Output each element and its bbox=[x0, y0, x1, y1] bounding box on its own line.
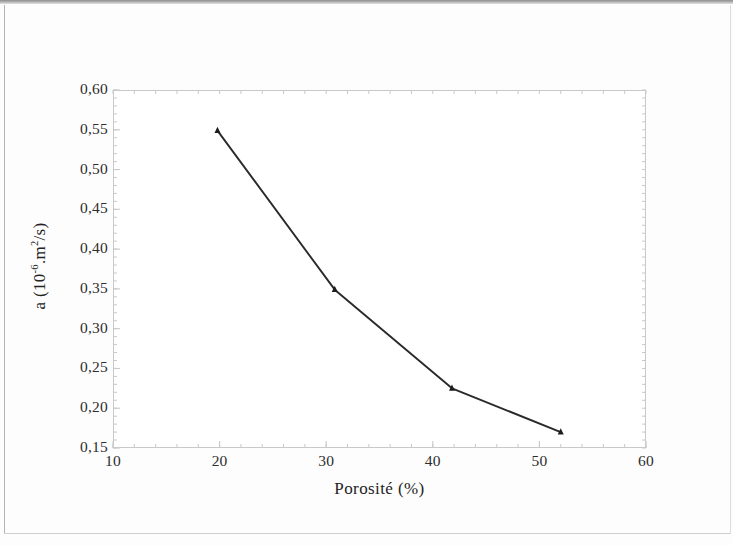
y-axis-minor-ticks bbox=[113, 90, 117, 448]
y-axis-tick-label: 0,25 bbox=[64, 358, 108, 376]
top-axis-minor-ticks bbox=[113, 90, 646, 94]
y-axis-title-exponent: -6 bbox=[29, 264, 40, 273]
y-axis-tick-label: 0,20 bbox=[64, 398, 108, 416]
data-series-markers bbox=[214, 127, 563, 435]
x-axis-tick-label: 30 bbox=[304, 452, 348, 470]
y-axis-title-suffix: /s) bbox=[30, 223, 49, 241]
chart-figure: 0,150,200,250,300,350,400,450,500,550,60… bbox=[0, 0, 733, 545]
y-axis-major-ticks bbox=[113, 90, 120, 448]
right-axis-minor-ticks bbox=[642, 90, 646, 448]
y-axis-tick-label: 0,50 bbox=[64, 160, 108, 178]
x-axis-tick-label: 40 bbox=[411, 452, 455, 470]
y-axis-tick-label: 0,60 bbox=[64, 80, 108, 98]
y-axis-tick-label: 0,55 bbox=[64, 120, 108, 138]
y-axis-title-prefix: a (10 bbox=[30, 273, 49, 309]
x-axis-tick-label: 60 bbox=[624, 452, 668, 470]
y-axis-title: a (10-6.m2/s) bbox=[30, 171, 50, 361]
y-axis-tick-label: 0,35 bbox=[64, 279, 108, 297]
x-axis-tick-label: 50 bbox=[517, 452, 561, 470]
y-axis-tick-label: 0,40 bbox=[64, 239, 108, 257]
y-axis-title-mid: .m bbox=[30, 246, 49, 264]
data-series-line bbox=[217, 131, 560, 433]
x-axis-tick-label: 20 bbox=[198, 452, 242, 470]
y-axis-tick-label: 0,30 bbox=[64, 319, 108, 337]
data-point-marker bbox=[214, 127, 220, 133]
x-axis-tick-label: 10 bbox=[91, 452, 135, 470]
x-axis-minor-ticks bbox=[113, 444, 646, 448]
y-axis-title-exponent-2: 2 bbox=[29, 240, 40, 246]
y-axis-tick-label: 0,45 bbox=[64, 199, 108, 217]
x-axis-title: Porosité (%) bbox=[113, 479, 646, 499]
x-axis-major-ticks bbox=[113, 441, 646, 448]
